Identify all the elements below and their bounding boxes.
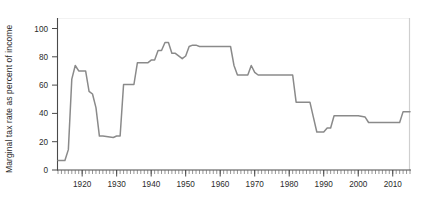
y-tick-label-40: 40 [39, 109, 49, 118]
x-tick-label-1950: 1950 [177, 180, 196, 189]
y-tick-label-20: 20 [39, 138, 49, 147]
x-tick-label-1990: 1990 [315, 180, 334, 189]
x-axis-tick-labels: 1920193019401950196019701980199020002010 [73, 180, 402, 189]
y-tick-label-60: 60 [39, 81, 49, 90]
y-axis-tick-labels: 0 20 40 60 80 100 [34, 25, 48, 176]
y-tick-label-0: 0 [43, 166, 48, 175]
x-tick-label-1920: 1920 [73, 180, 92, 189]
tax-rate-line-chart: 0 20 40 60 80 100 1920193019401950196019… [0, 0, 435, 208]
y-tick-label-100: 100 [34, 25, 48, 34]
x-tick-label-1940: 1940 [142, 180, 161, 189]
chart-svg: 0 20 40 60 80 100 1920193019401950196019… [0, 0, 435, 208]
x-tick-label-1970: 1970 [246, 180, 265, 189]
x-tick-label-2000: 2000 [349, 180, 368, 189]
y-axis-title: Marginal tax rate as percent of income [4, 24, 14, 173]
y-tick-label-80: 80 [39, 53, 49, 62]
x-tick-label-1930: 1930 [108, 180, 127, 189]
x-axis-minor-ticks [58, 170, 410, 174]
x-tick-label-1980: 1980 [280, 180, 299, 189]
x-tick-label-1960: 1960 [211, 180, 230, 189]
x-tick-label-2010: 2010 [384, 180, 403, 189]
plot-background [58, 18, 410, 170]
